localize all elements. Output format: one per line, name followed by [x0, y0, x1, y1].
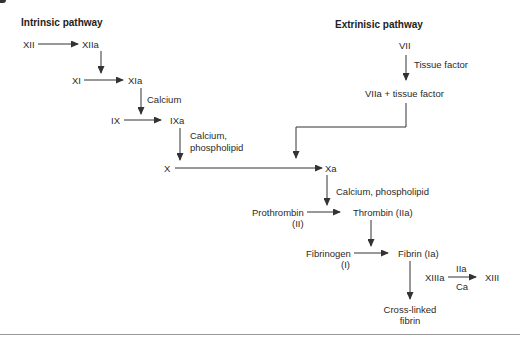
thrombin: Thrombin (IIa) [353, 207, 413, 218]
crosslinked-fibrin-line2: fibrin [380, 315, 440, 326]
cofactor-calcium: Calcium [147, 94, 181, 105]
cofactor-iia: IIa [456, 263, 467, 274]
crosslinked-fibrin-line1: Cross-linked [380, 304, 440, 315]
factor-xia: XIa [128, 75, 142, 86]
prothrombin: Prothrombin [252, 207, 304, 218]
cofactor-xa-calcium-phospholipid: Calcium, phospholipid [336, 186, 429, 197]
prothrombin-code: (II) [292, 218, 304, 229]
cofactor-calcium-phospholipid-2: phospholipid [190, 142, 243, 153]
factor-xii: XII [23, 39, 35, 50]
extrinsic-pathway-heading: Extrinisic pathway [335, 19, 423, 30]
factor-viia-tissue-factor: VIIa + tissue factor [365, 88, 444, 99]
cofactor-calcium-phospholipid-1: Calcium, [190, 130, 227, 141]
factor-vii: VII [399, 40, 411, 51]
factor-ix: IX [111, 115, 120, 126]
fibrinogen: Fibrinogen [306, 248, 351, 259]
fibrin: Fibrin (Ia) [398, 248, 439, 259]
factor-xiia: XIIa [82, 39, 99, 50]
cofactor-tissue-factor: Tissue factor [414, 59, 468, 70]
factor-x: X [164, 163, 170, 174]
factor-ixa: IXa [170, 115, 184, 126]
factor-xiii: XIII [485, 272, 499, 283]
factor-xi: XI [72, 75, 81, 86]
intrinsic-pathway-heading: Intrinsic pathway [21, 17, 103, 28]
factor-xa: Xa [325, 163, 337, 174]
pathway-arrows [0, 0, 520, 341]
factor-xiiia: XIIIa [425, 272, 445, 283]
cofactor-ca: Ca [456, 281, 468, 292]
fibrinogen-code: (I) [341, 259, 350, 270]
